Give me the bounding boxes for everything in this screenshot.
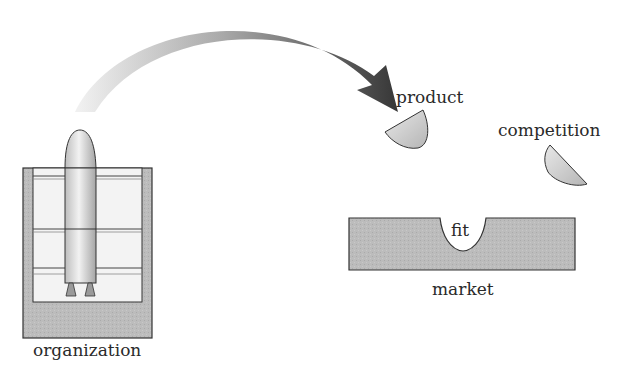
rocket [65, 130, 96, 296]
organization-label: organization [33, 342, 141, 359]
product-label: product [396, 89, 463, 106]
competition-shape [545, 145, 587, 185]
product-shape [385, 110, 428, 148]
fit-label: fit [451, 222, 469, 239]
market-label: market [432, 281, 494, 298]
strategy-diagram: product competition fit market organizat… [0, 0, 617, 365]
curved-arrow [75, 31, 398, 112]
competition-label: competition [498, 122, 601, 139]
